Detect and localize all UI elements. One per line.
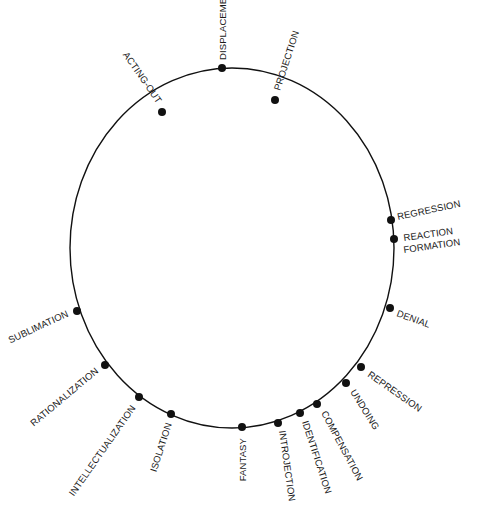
node-dot-reaction-formation-1: [390, 235, 398, 243]
node-dot-identification: [296, 409, 304, 417]
label-sublimation: SUBLIMATION: [6, 308, 69, 345]
node-labels: ACTING-OUTDISPLACEMENTPROJECTIONREGRESSI…: [6, 0, 461, 502]
label-regression: REGRESSION: [396, 198, 461, 222]
node-dot-introjection: [274, 419, 282, 427]
node-dot-fantasy: [238, 423, 246, 431]
node-dot-projection: [271, 96, 279, 104]
node-dot-compensation: [313, 400, 321, 408]
node-dot-undoing: [342, 379, 350, 387]
circle-outline: [70, 68, 394, 428]
node-dots: [73, 64, 398, 431]
node-dot-denial: [386, 304, 394, 312]
label-undoing: UNDOING: [348, 387, 381, 431]
label-intellectualization: INTELLECTUALIZATION: [66, 403, 137, 498]
node-dot-rationalization: [101, 361, 109, 369]
node-dot-intellectualization: [135, 393, 143, 401]
node-dot-repression: [357, 363, 365, 371]
label-repression: REPRESSION: [366, 369, 424, 414]
label-acting-out: ACTING-OUT: [121, 50, 165, 106]
label-isolation: ISOLATION: [148, 421, 174, 473]
label-fantasy: FANTASY: [237, 437, 248, 481]
label-denial: DENIAL: [395, 308, 432, 330]
label-introjection: INTROJECTION: [277, 430, 298, 502]
node-dot-acting-out: [158, 108, 166, 116]
node-dot-sublimation: [73, 307, 81, 315]
label-rationalization: RATIONALIZATION: [28, 365, 100, 428]
label-displacement: DISPLACEMENT: [217, 0, 228, 60]
node-dot-isolation: [167, 410, 175, 418]
node-dot-displacement: [218, 64, 226, 72]
defense-mechanisms-circle-diagram: ACTING-OUTDISPLACEMENTPROJECTIONREGRESSI…: [0, 0, 478, 510]
node-dot-regression: [387, 216, 395, 224]
